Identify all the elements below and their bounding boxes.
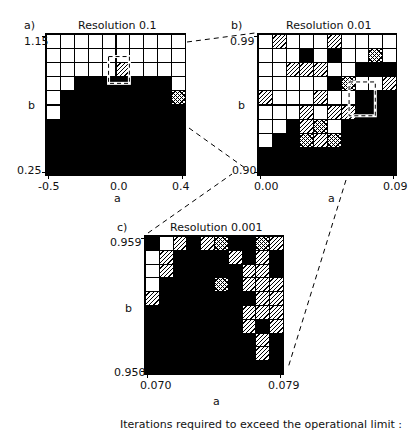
- grid-cell: [173, 264, 188, 279]
- panel-c-grid: [144, 235, 284, 375]
- grid-cell: [173, 236, 188, 251]
- grid-cell: [327, 48, 342, 63]
- grid-cell: [242, 333, 257, 348]
- grid-cell: [46, 48, 61, 63]
- grid-cell: [74, 147, 89, 162]
- grid-cell: [145, 264, 160, 279]
- grid-cell: [382, 147, 397, 162]
- grid-cell: [173, 346, 188, 361]
- grid-cell: [159, 264, 174, 279]
- grid-cell: [214, 346, 229, 361]
- grid-cell: [129, 90, 144, 105]
- grid-cell: [313, 48, 328, 63]
- grid-cell: [269, 236, 284, 251]
- grid-cell: [129, 161, 144, 176]
- grid-cell: [186, 291, 201, 306]
- grid-cell: [186, 360, 201, 375]
- grid-cell: [255, 346, 270, 361]
- grid-cell: [116, 147, 131, 162]
- grid-cell: [145, 236, 160, 251]
- grid-cell: [186, 319, 201, 334]
- grid-cell: [286, 90, 301, 105]
- grid-cell: [46, 105, 61, 120]
- grid-cell: [157, 147, 172, 162]
- grid-cell: [74, 76, 89, 91]
- panel-b-letter: b): [231, 20, 242, 32]
- grid-cell: [228, 319, 243, 334]
- grid-cell: [60, 161, 75, 176]
- grid-cell: [116, 161, 131, 176]
- grid-cell: [228, 346, 243, 361]
- grid-cell: [200, 277, 215, 292]
- grid-cell: [341, 48, 356, 63]
- grid-cell: [74, 105, 89, 120]
- axis-tick: [147, 375, 148, 378]
- grid-cell: [143, 105, 158, 120]
- grid-cell: [129, 133, 144, 148]
- grid-cell: [355, 133, 370, 148]
- grid-cell: [327, 119, 342, 134]
- grid-cell: [129, 76, 144, 91]
- grid-cell: [143, 119, 158, 134]
- grid-cell: [102, 147, 117, 162]
- grid-cell: [355, 34, 370, 49]
- grid-cell: [157, 62, 172, 77]
- panel-a-title: Resolution 0.1: [78, 20, 156, 32]
- grid-cell: [286, 161, 301, 176]
- grid-cell: [186, 305, 201, 320]
- grid-cell: [171, 161, 186, 176]
- figure-stage: a) Resolution 0.1 1.15 0.25 b -0.5 0.0 0…: [0, 0, 415, 435]
- grid-cell: [355, 76, 370, 91]
- grid-cell: [157, 48, 172, 63]
- grid-cell: [214, 236, 229, 251]
- grid-cell: [186, 250, 201, 265]
- grid-cell: [159, 360, 174, 375]
- grid-cell: [355, 62, 370, 77]
- grid-cell: [143, 90, 158, 105]
- grid-cell: [173, 333, 188, 348]
- grid-cell: [214, 360, 229, 375]
- grid-cell: [143, 76, 158, 91]
- grid-cell: [368, 62, 383, 77]
- grid-cell: [46, 62, 61, 77]
- grid-cell: [116, 62, 131, 77]
- panel-a-ytick-top: 1.15: [24, 36, 49, 48]
- grid-cell: [313, 133, 328, 148]
- grid-cell: [272, 62, 287, 77]
- grid-cell: [145, 333, 160, 348]
- grid-cell: [255, 277, 270, 292]
- axis-tick: [48, 176, 49, 179]
- panel-b-ylabel: b: [238, 100, 245, 112]
- grid-cell: [286, 105, 301, 120]
- panel-a-xtick-left: -0.5: [38, 181, 59, 193]
- panel-c-xlabel: a: [213, 396, 220, 408]
- grid-cell: [159, 319, 174, 334]
- grid-cell: [327, 133, 342, 148]
- grid-cell: [255, 291, 270, 306]
- grid-cell: [269, 333, 284, 348]
- panel-c-ytick-bottom: 0.950: [114, 367, 146, 379]
- grid-cell: [88, 161, 103, 176]
- grid-cell: [145, 360, 160, 375]
- grid-cell: [173, 319, 188, 334]
- grid-cell: [272, 119, 287, 134]
- panel-a-letter: a): [24, 20, 35, 32]
- grid-cell: [159, 291, 174, 306]
- grid-cell: [60, 90, 75, 105]
- grid-cell: [88, 133, 103, 148]
- grid-cell: [186, 277, 201, 292]
- grid-cell: [313, 34, 328, 49]
- grid-cell: [159, 277, 174, 292]
- grid-cell: [102, 105, 117, 120]
- axis-tick: [260, 176, 261, 179]
- grid-cell: [171, 62, 186, 77]
- grid-cell: [74, 34, 89, 49]
- grid-cell: [341, 133, 356, 148]
- grid-cell: [145, 346, 160, 361]
- grid-cell: [102, 62, 117, 77]
- grid-cell: [368, 161, 383, 176]
- grid-cell: [173, 250, 188, 265]
- grid-cell: [255, 305, 270, 320]
- grid-cell: [157, 76, 172, 91]
- grid-cell: [157, 34, 172, 49]
